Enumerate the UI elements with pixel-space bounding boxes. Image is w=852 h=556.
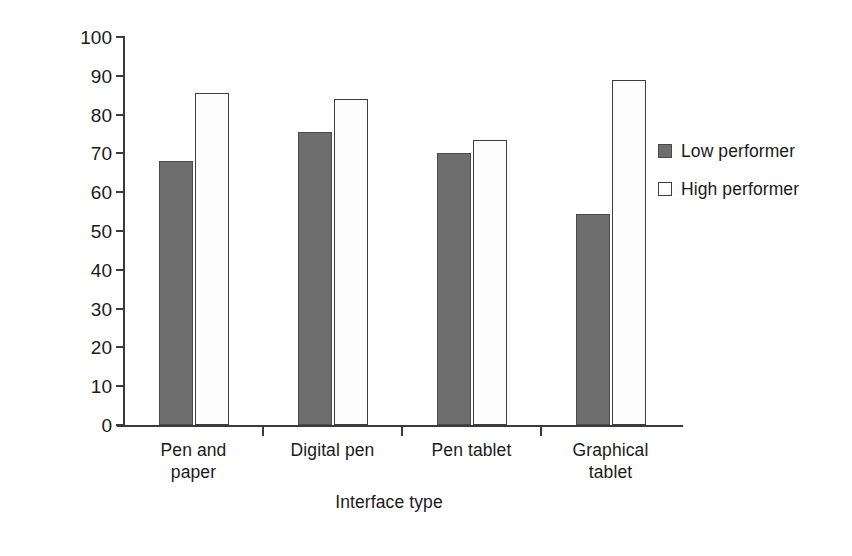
y-tick-label-10: 10 [52,377,112,396]
x-axis-line [117,425,683,427]
y-tick-70 [116,152,124,154]
y-tick-label-100: 100 [52,28,112,47]
y-tick-20 [116,346,124,348]
y-tick-40 [116,269,124,271]
x-group-separator-2 [401,427,403,436]
y-tick-90 [116,75,124,77]
y-axis-tick-labels: 0102030405060708090100 [52,37,112,425]
bar-high-performer-digital-pen [334,99,368,425]
y-tick-0 [116,424,124,426]
legend-swatch-icon-high [658,182,672,196]
y-tick-30 [116,308,124,310]
legend-item-low-performer: Low performer [658,132,848,170]
y-tick-label-80: 80 [52,106,112,125]
y-tick-100 [116,36,124,38]
y-tick-label-0: 0 [52,416,112,435]
legend-item-high-performer: High performer [658,170,848,208]
bar-low-performer-pen-and-paper [159,161,193,425]
bar-low-performer-digital-pen [298,132,332,425]
y-tick-label-90: 90 [52,67,112,86]
y-tick-10 [116,385,124,387]
bar-low-performer-graphical-tablet [576,214,610,425]
x-axis-title: Interface type [124,492,654,513]
x-group-separator-1 [262,427,264,436]
plot-area: 0102030405060708090100 Pen andpaperDigit… [124,37,680,425]
legend-label: High performer [681,179,799,200]
legend-swatch-icon-low [658,144,672,158]
y-tick-label-30: 30 [52,300,112,319]
x-category-label-graphical-tablet: Graphicaltablet [541,439,680,483]
x-group-separator-3 [540,427,542,436]
y-tick-label-60: 60 [52,183,112,202]
legend: Low performerHigh performer [658,132,848,208]
x-category-label-pen-tablet: Pen tablet [402,439,541,461]
bar-high-performer-pen-and-paper [195,93,229,425]
bar-chart-figure: Percent correct inferences Interface typ… [0,0,852,556]
bar-high-performer-graphical-tablet [612,80,646,425]
bar-low-performer-pen-tablet [437,153,471,425]
y-tick-50 [116,230,124,232]
x-category-label-pen-and-paper: Pen andpaper [124,439,263,483]
y-tick-label-20: 20 [52,338,112,357]
y-tick-60 [116,191,124,193]
y-tick-80 [116,114,124,116]
y-tick-label-40: 40 [52,261,112,280]
legend-label: Low performer [681,141,795,162]
x-category-label-digital-pen: Digital pen [263,439,402,461]
y-tick-label-70: 70 [52,144,112,163]
y-tick-label-50: 50 [52,222,112,241]
bar-high-performer-pen-tablet [473,140,507,425]
